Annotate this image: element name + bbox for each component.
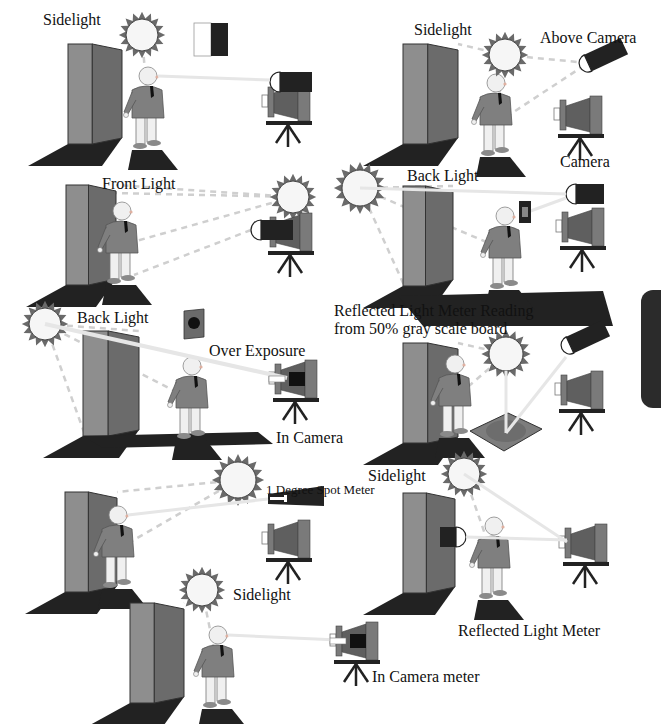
- person-shadow: [128, 150, 178, 170]
- sun-icon: [482, 32, 528, 78]
- tripod-leg: [290, 255, 302, 273]
- label-sidelight-2: Sidelight: [414, 22, 472, 38]
- label-reflected-reading-2: from 50% gray scale board: [334, 321, 507, 337]
- incident-light-meter-icon: [270, 72, 312, 92]
- person-head: [496, 207, 514, 225]
- label-in-camera-meter: In Camera meter: [372, 669, 480, 685]
- tripod-leg: [569, 413, 581, 431]
- wall-flat: [363, 44, 458, 166]
- incident-light-meter-icon: [566, 184, 604, 204]
- tripod-leg: [582, 250, 594, 268]
- tripod-leg: [278, 255, 290, 273]
- scene-sidelight-incident: [28, 12, 312, 170]
- person-shadow: [476, 157, 526, 177]
- subject-person: [472, 74, 527, 177]
- camera-icon: [262, 520, 312, 584]
- label-one-degree-spot: 1 Degree Spot Meter: [266, 483, 375, 496]
- person-head: [485, 517, 503, 535]
- meter-beam: [525, 198, 566, 213]
- scene-back-light-over-exposure: [22, 301, 319, 460]
- label-over-exposure: Over Exposure: [209, 343, 305, 359]
- meter-beam: [128, 499, 268, 515]
- subject-person: [194, 626, 249, 724]
- tripod-leg: [356, 664, 368, 682]
- sun-icon: [119, 12, 165, 58]
- reflected-light-meter-icon: [440, 527, 466, 547]
- tripod-leg: [570, 250, 582, 268]
- person-head: [113, 202, 131, 220]
- camera-icon: [262, 83, 312, 147]
- scene-reflected-gray-board: [363, 320, 610, 465]
- meter-dome: [566, 184, 576, 204]
- chapter-edge-tab: [641, 290, 661, 408]
- label-back-light-2: Back Light: [77, 310, 149, 326]
- person-head: [487, 74, 505, 92]
- person-head: [446, 355, 464, 373]
- tripod-leg: [276, 125, 288, 143]
- tripod-leg: [276, 562, 288, 580]
- incident-light-meter-icon: [251, 220, 293, 240]
- meter-beam: [158, 76, 270, 80]
- sun-icon: [179, 567, 225, 613]
- person-head: [209, 626, 227, 644]
- tripod-leg: [295, 402, 307, 420]
- label-in-camera: In Camera: [276, 430, 343, 446]
- meter-beam: [464, 474, 567, 542]
- camera-icon: [269, 360, 319, 424]
- subject-person: [470, 517, 525, 620]
- in-camera-meter-cell: [350, 634, 366, 648]
- label-reflected-reading-1: Reflected Light Meter Reading: [334, 303, 533, 319]
- tripod-leg: [288, 125, 300, 143]
- tripod-leg: [585, 566, 597, 584]
- label-front-light: Front Light: [102, 176, 175, 192]
- label-sidelight-4: Sidelight: [233, 587, 291, 603]
- tripod-leg: [288, 562, 300, 580]
- meter-dome: [456, 527, 466, 547]
- person-shadow: [435, 438, 485, 458]
- wall-flat: [90, 603, 184, 724]
- camera-icon: [554, 96, 604, 160]
- wall-flat: [363, 493, 455, 615]
- meter-beam: [228, 635, 338, 640]
- wall-flat: [28, 44, 122, 166]
- label-camera: Camera: [560, 154, 610, 170]
- tripod-leg: [344, 664, 356, 682]
- meter-dome: [251, 220, 261, 240]
- person-shadow: [198, 709, 248, 724]
- subject-person: [124, 67, 179, 170]
- swatch-black: [211, 23, 228, 56]
- black-white-swatch: [194, 23, 228, 56]
- camera-icon: [559, 524, 609, 588]
- tripod-leg: [581, 413, 593, 431]
- person-shadow: [102, 285, 152, 305]
- label-back-light-1: Back Light: [407, 168, 479, 184]
- person-head: [139, 67, 157, 85]
- label-sidelight-1: Sidelight: [43, 12, 101, 28]
- sun-icon: [212, 454, 264, 506]
- tripod-leg: [283, 402, 295, 420]
- label-reflected-light-meter: Reflected Light Meter: [458, 623, 600, 639]
- label-above-camera: Above Camera: [540, 30, 636, 46]
- scene-front-light: [26, 174, 316, 307]
- tripod-leg: [573, 566, 585, 584]
- camera-icon: [556, 208, 606, 272]
- label-sidelight-3: Sidelight: [368, 468, 426, 484]
- camera-icon: [555, 371, 605, 435]
- person-shadow: [474, 600, 524, 620]
- meter-beam: [360, 188, 566, 194]
- swatch-white: [194, 23, 211, 56]
- person-head: [109, 506, 127, 524]
- in-camera-meter-cell: [289, 372, 305, 386]
